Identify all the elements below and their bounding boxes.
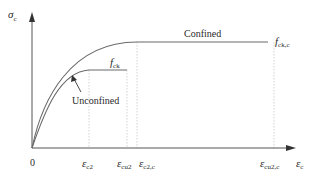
stress-strain-diagram: σc fck fck,c Confined Unconfined 0 εc2 ε… <box>0 0 321 181</box>
unconfined-pointer <box>74 79 81 92</box>
unconfined-annotation: Unconfined <box>72 95 119 106</box>
y-axis-label: σc <box>8 8 17 23</box>
confined-annotation: Confined <box>184 28 221 39</box>
tick-ec2: εc2 <box>82 157 93 171</box>
x-axis-label: εc <box>296 157 303 171</box>
tick-ecu2c: εcu2,c <box>260 157 279 171</box>
tick-ecu2: εcu2 <box>117 157 132 171</box>
x-axis-arrow-icon <box>286 145 296 151</box>
tick-ec2c: εc2,c <box>139 157 155 171</box>
unconfined-curve <box>32 70 127 148</box>
pointer-arrow-icon <box>71 75 77 82</box>
y-axis-arrow-icon <box>29 12 35 22</box>
confined-curve <box>32 42 268 148</box>
fckc-label: fck,c <box>275 35 290 49</box>
fck-label: fck <box>110 56 120 70</box>
origin-label: 0 <box>30 157 35 168</box>
